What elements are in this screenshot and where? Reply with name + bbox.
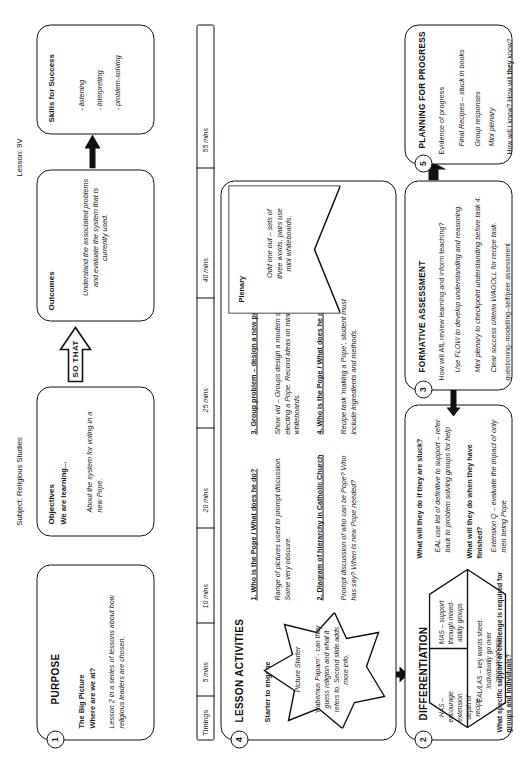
- planning-item-1: Group responses: [472, 91, 482, 146]
- differentiation-question-2: What will they do when they have finishe…: [464, 428, 483, 558]
- skills-item-2: - problem-solving: [112, 55, 122, 110]
- planning-footer: How will I know? How will they know?: [504, 26, 513, 154]
- objectives-title: Objectives: [46, 484, 57, 524]
- arrow-to-formative-icon: [446, 388, 460, 416]
- planning-item-0: Final Recipes – stuck in books: [456, 49, 466, 146]
- planning-item-2: Mini plenary: [486, 107, 496, 146]
- differentiation-hex-1: MAS – support through mixed-ability grou…: [437, 600, 464, 644]
- planning-footer-c: know?: [505, 38, 512, 60]
- activity-step-body-3: Recipe task 'making a Pope', student mus…: [338, 276, 357, 434]
- activity-step-heading-0: 1. Who is the Pope / What does he do?: [248, 450, 258, 600]
- timings-tick: [196, 297, 214, 298]
- plenary-label: Plenary: [236, 275, 246, 302]
- timings-tick: [196, 527, 214, 528]
- activity-step-body-0: Range of pictures used to prompt discuss…: [272, 452, 291, 600]
- objectives-body: About the system for voting in a new Pop…: [84, 400, 103, 512]
- subject-label: Subject: Religious Studies: [14, 437, 24, 525]
- formative-number: 3: [414, 380, 432, 398]
- skills-title: Skills for Success: [46, 54, 57, 122]
- purpose-body: Lesson 2 in a series of lessons about ho…: [106, 576, 125, 728]
- formative-footer: questioning–modelling–self/peer assessme…: [502, 184, 511, 380]
- starter-title: Picture Starter: [292, 626, 302, 712]
- objectives-heading: We are learning...: [58, 461, 68, 524]
- timings-mark-4: 40 mins: [200, 257, 209, 282]
- outcomes-title: Outcomes: [46, 271, 57, 310]
- arrow-to-skills-icon: [84, 134, 100, 168]
- timings-mark-5: 55 mins: [200, 127, 209, 152]
- planning-title: PLANNING FOR PROGRESS: [416, 31, 427, 148]
- timings-tick: [196, 167, 214, 168]
- timings-mark-2: 20 mins: [200, 487, 209, 512]
- purpose-heading: The Big Picture: [76, 674, 86, 728]
- timings-mark-3: 25 mins: [200, 387, 209, 412]
- formative-item-0: Use FLOW to develop understanding and re…: [452, 190, 462, 372]
- differentiation-answer-1: EAL use list of definitive to support – …: [432, 416, 451, 552]
- differentiation-question-1: What will they do if they are stuck?: [414, 418, 424, 558]
- starter-body: 'Habemus Papam' - can they guess religio…: [312, 622, 349, 716]
- outcomes-body: Understand the associated problems and e…: [80, 178, 109, 296]
- lesson-label: Lesson: 9V: [14, 138, 24, 176]
- purpose-question: Where are we at?: [87, 667, 97, 728]
- differentiation-number: 2: [414, 730, 432, 748]
- purpose-number: 1: [46, 730, 64, 748]
- planning-footer-a: How will I know? How will: [505, 74, 512, 154]
- timings-tick: [196, 427, 214, 428]
- planning-heading: Evidence of progress: [436, 86, 446, 154]
- activities-number: 4: [230, 730, 248, 748]
- planning-number: 5: [414, 154, 432, 172]
- timings-tick: [196, 695, 214, 696]
- activity-step-body-1: Prompt discussion of who can be Pope? Wh…: [338, 444, 357, 600]
- activities-title: LESSON ACTIVITIES: [232, 618, 246, 722]
- skills-item-0: - listening: [76, 79, 86, 110]
- timings-label: Timings: [200, 709, 210, 735]
- lesson-plan-sheet: Subject: Religious Studies Lesson: 9V 1 …: [0, 0, 525, 768]
- planning-footer-emphasis: they: [505, 60, 512, 74]
- skills-item-1: - interpreting: [94, 70, 104, 110]
- so-that-label: SO THAT: [70, 340, 81, 377]
- differentiation-title: DIFFERENTIATION: [416, 626, 430, 720]
- timings-mark-1: 10 mins: [200, 583, 209, 608]
- timings-mark-0: 5 mins: [200, 661, 209, 682]
- formative-question: How will AfL review learning and inform …: [436, 184, 446, 380]
- plenary-body: Odd one out – sets of three words, pairs…: [264, 204, 293, 282]
- formative-title: FORMATIVE ASSESSMENT: [416, 260, 427, 372]
- differentiation-answer-2: Extension Q – evaluate the impact of onl…: [488, 416, 507, 552]
- formative-item-2: Clear success criteria WAGOLL for recipe…: [488, 190, 498, 372]
- activity-step-heading-1: 2. Diagram of hierarchy in Catholic Chur…: [314, 440, 324, 600]
- page-frame: Subject: Religious Studies Lesson: 9V 1 …: [0, 0, 525, 768]
- formative-item-1: Mini plenary to checkpoint understanding…: [472, 190, 482, 372]
- timings-tick: [196, 622, 214, 623]
- differentiation-footer: What specific support or challenge is re…: [494, 562, 512, 732]
- purpose-title: PURPOSE: [48, 653, 62, 704]
